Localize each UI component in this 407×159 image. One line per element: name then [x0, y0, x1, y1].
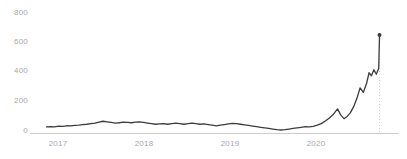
x-tick-label: 2019 [210, 140, 250, 148]
chart-plot-area [0, 0, 407, 159]
end-point-marker [378, 33, 382, 37]
y-tick-label: 800 [2, 9, 28, 17]
y-tick-label: 400 [2, 67, 28, 75]
x-tick-label: 2017 [38, 140, 78, 148]
x-tick-label: 2018 [124, 140, 164, 148]
line-chart: 8006004002000 2017201820192020 [0, 0, 407, 159]
x-tick-label: 2020 [296, 140, 336, 148]
y-tick-label: 200 [2, 97, 28, 105]
price-line-series [47, 35, 380, 130]
y-tick-label: 600 [2, 38, 28, 46]
y-tick-label: 0 [2, 127, 28, 135]
